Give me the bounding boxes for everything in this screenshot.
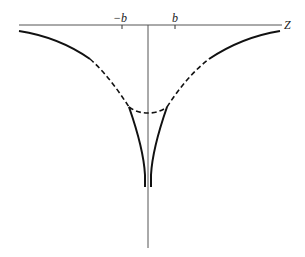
inner-cusp-right-curve xyxy=(151,107,167,187)
label-neg-b: −b xyxy=(113,11,127,25)
outer-right-dashed-curve xyxy=(167,59,209,107)
diagram-canvas: −b b Z xyxy=(0,0,305,257)
outer-right-solid-curve xyxy=(209,31,280,59)
inner-cusp-left-curve xyxy=(129,107,145,187)
label-z: Z xyxy=(284,18,291,32)
outer-left-dashed-curve xyxy=(90,59,129,107)
outer-left-solid-curve xyxy=(19,31,90,59)
label-pos-b: b xyxy=(172,11,178,25)
